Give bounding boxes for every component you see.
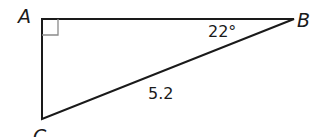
vertex-label-a: A <box>16 5 31 27</box>
hypotenuse-length-label: 5.2 <box>148 84 173 103</box>
triangle-abc <box>42 19 294 119</box>
triangle-diagram: A B C 22° 5.2 <box>0 0 311 137</box>
angle-b-label: 22° <box>208 22 236 41</box>
vertex-label-c: C <box>33 125 47 137</box>
right-angle-marker <box>42 19 58 35</box>
vertex-label-b: B <box>297 9 310 31</box>
